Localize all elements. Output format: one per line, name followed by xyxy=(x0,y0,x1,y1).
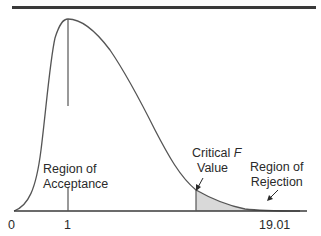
x-tick-critical: 19.01 xyxy=(259,218,290,232)
rejection-label-line2: Rejection xyxy=(250,175,304,190)
critical-label-f: F xyxy=(234,146,242,160)
rejection-label: Region of Rejection xyxy=(250,160,304,190)
critical-label-line1: Critical F xyxy=(192,146,241,161)
acceptance-label-line1: Region of xyxy=(43,162,108,177)
rejection-shaded-area xyxy=(196,190,275,211)
critical-value-label: Critical F Value xyxy=(192,146,241,176)
acceptance-label: Region of Acceptance xyxy=(43,162,108,192)
critical-label-text: Critical xyxy=(192,146,234,160)
rejection-label-line1: Region of xyxy=(250,160,304,175)
f-distribution-plot xyxy=(0,0,321,236)
critical-arrow-icon xyxy=(196,178,203,191)
x-tick-1: 1 xyxy=(64,218,71,232)
x-tick-0: 0 xyxy=(8,218,15,232)
acceptance-label-line2: Acceptance xyxy=(43,177,108,192)
rejection-arrow-icon xyxy=(267,190,278,201)
critical-label-line2: Value xyxy=(192,161,241,176)
